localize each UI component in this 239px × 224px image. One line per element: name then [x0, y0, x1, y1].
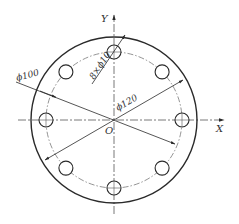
hole-bottom-left [59, 161, 73, 175]
pitch-diameter-label: ϕ100 [15, 67, 40, 83]
outer-diameter-label: ϕ120 [114, 92, 139, 112]
y-axis-label: Y [101, 13, 109, 24]
x-axis-label: X [215, 123, 224, 134]
flange-drawing: Y X O ϕ120 ϕ100 8×ϕ10 [0, 0, 239, 224]
hole-bottom-right [155, 161, 169, 175]
hole-spec-label: 8×ϕ10 [87, 50, 112, 82]
origin-label: O [105, 125, 113, 136]
hole-top-right [155, 65, 169, 79]
hole-top-left [59, 65, 73, 79]
pitch-diameter-arrow-left [40, 91, 56, 97]
pitch-diameter-dimension [16, 82, 175, 144]
